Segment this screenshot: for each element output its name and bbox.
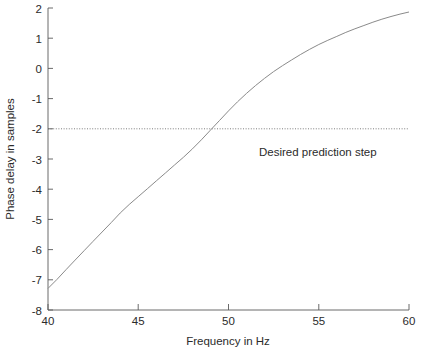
y-tick-label-5: -3 — [32, 154, 42, 166]
x-tick-label-0: 40 — [42, 315, 55, 327]
y-tick-labels: 2 1 0 -1 -2 -3 -4 -5 -6 -7 -8 — [32, 3, 43, 317]
axis-spines — [48, 8, 409, 310]
x-axis-title: Frequency in Hz — [186, 335, 270, 347]
x-tick-label-1: 45 — [132, 315, 145, 327]
y-tick-label-9: -7 — [32, 274, 42, 286]
x-tick-marks — [48, 304, 409, 310]
desired-prediction-step-annotation: Desired prediction step — [259, 146, 377, 158]
x-tick-label-2: 50 — [222, 315, 235, 327]
y-tick-label-0: 2 — [36, 3, 42, 15]
y-tick-label-10: -8 — [32, 305, 42, 317]
phase-delay-chart-figure: 2 1 0 -1 -2 -3 -4 -5 -6 -7 -8 40 45 50 5… — [0, 0, 423, 354]
y-tick-label-3: -1 — [32, 93, 42, 105]
x-tick-labels: 40 45 50 55 60 — [42, 315, 416, 327]
y-tick-label-2: 0 — [36, 63, 42, 75]
x-tick-label-4: 60 — [403, 315, 416, 327]
y-tick-label-8: -6 — [32, 244, 42, 256]
y-tick-label-7: -5 — [32, 214, 42, 226]
y-tick-label-1: 1 — [36, 33, 42, 45]
y-tick-label-4: -2 — [32, 123, 42, 135]
y-tick-label-6: -4 — [32, 184, 43, 196]
y-axis-title: Phase delay in samples — [4, 98, 16, 220]
chart-canvas: 2 1 0 -1 -2 -3 -4 -5 -6 -7 -8 40 45 50 5… — [0, 0, 423, 354]
y-tick-marks — [48, 8, 53, 310]
x-tick-label-3: 55 — [312, 315, 325, 327]
